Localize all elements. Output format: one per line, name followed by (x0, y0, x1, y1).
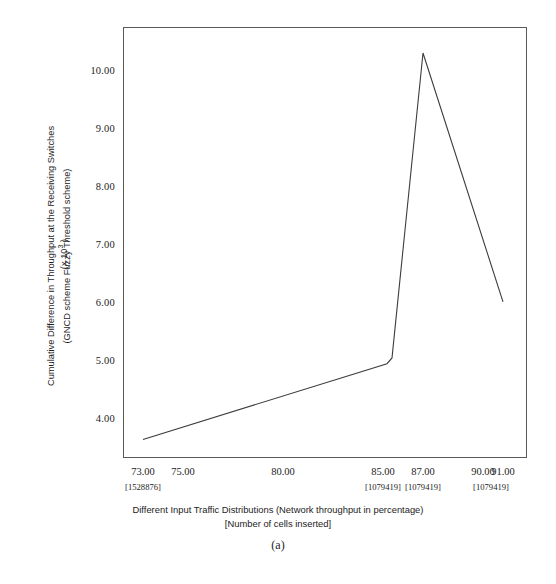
x-tick-label: 87.00 (411, 466, 435, 477)
x-tick-bracket-label: [1079419] (473, 482, 509, 492)
x-tick-label: 85.00 (371, 466, 395, 477)
x-axis-title: Different Input Traffic Distributions (N… (0, 503, 556, 531)
figure-caption: (a) (0, 538, 556, 553)
x-tick-label: 91.00 (491, 466, 515, 477)
data-series-line (143, 53, 503, 439)
x-axis-title-line1: Different Input Traffic Distributions (N… (0, 503, 556, 517)
x-tick-label: 73.00 (131, 466, 155, 477)
y-tick-label: 6.00 (55, 296, 115, 307)
x-tick-bracket-label: [1528876] (125, 482, 161, 492)
y-tick-label: 5.00 (55, 354, 115, 365)
plot-area (123, 27, 527, 458)
y-tick-label: 8.00 (55, 181, 115, 192)
x-axis-title-line2: [Number of cells inserted] (0, 517, 556, 531)
y-tick-label: 4.00 (55, 412, 115, 423)
y-tick-label: 10.00 (55, 65, 115, 76)
y-tick-label: 7.00 (55, 238, 115, 249)
figure-container: Cumulative Difference in Throughput at t… (0, 0, 556, 584)
x-tick-label: 80.00 (271, 466, 295, 477)
x-tick-label: 75.00 (171, 466, 195, 477)
y-tick-label: 9.00 (55, 123, 115, 134)
x-tick-bracket-label: [1079419] (405, 482, 441, 492)
x-tick-bracket-label: [1079419] (365, 482, 401, 492)
